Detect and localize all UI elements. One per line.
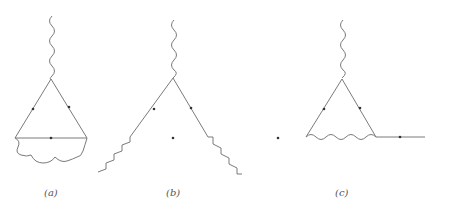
arrow-right-b xyxy=(190,107,193,110)
label-a: (a) xyxy=(44,187,58,198)
diagram-a: (a) xyxy=(15,16,87,198)
fermion-triangle-a xyxy=(15,79,87,138)
internal-photon-c xyxy=(306,135,376,140)
diagram-c: (c) xyxy=(306,20,425,198)
arrow-bottom-a xyxy=(50,137,53,140)
feynman-diagrams-canvas: (a) (b) (c) xyxy=(0,0,455,211)
center-dot-b xyxy=(172,137,175,140)
arrow-left-a xyxy=(32,108,35,111)
arrow-right-a xyxy=(68,106,71,109)
arrow-outgoing-c xyxy=(399,136,402,139)
label-c: (c) xyxy=(335,187,349,198)
separator-dot xyxy=(277,137,280,140)
label-b: (b) xyxy=(166,187,180,198)
external-photon-b xyxy=(172,20,177,78)
diagram-b: (b) xyxy=(98,20,242,198)
emitted-photon-right-b xyxy=(208,137,242,174)
arrow-right-c xyxy=(359,107,362,110)
arrow-left-b xyxy=(153,108,156,111)
internal-photon-a xyxy=(15,138,87,163)
external-photon-c xyxy=(341,20,346,78)
emitted-photon-left-b xyxy=(98,137,130,172)
fermion-line-left-b xyxy=(130,78,173,137)
external-photon-a xyxy=(50,16,55,79)
arrow-left-c xyxy=(323,108,326,111)
